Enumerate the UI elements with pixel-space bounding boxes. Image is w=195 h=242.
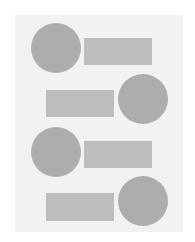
rectangle-shape — [46, 90, 114, 117]
rectangle-shape — [46, 193, 114, 221]
circle-shape — [118, 176, 168, 226]
circle-shape — [31, 23, 81, 73]
rectangle-shape — [84, 38, 152, 65]
circle-shape — [31, 127, 81, 177]
rectangle-shape — [84, 141, 152, 168]
circle-shape — [118, 74, 168, 124]
